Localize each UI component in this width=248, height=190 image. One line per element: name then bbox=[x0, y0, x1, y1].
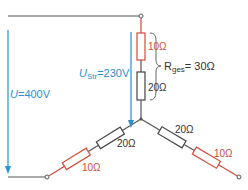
resistor-top-red bbox=[137, 33, 145, 60]
top-terminal bbox=[139, 14, 143, 18]
resistor-label-left-black: 20Ω bbox=[117, 139, 136, 149]
resistor-label-top-red: 10Ω bbox=[148, 42, 167, 52]
resistor-label-right-red: 10Ω bbox=[214, 149, 233, 159]
resistor-top-black bbox=[137, 72, 145, 100]
total-resistance-label: Rges= 30Ω bbox=[164, 61, 215, 74]
phase-voltage-label: UStr=230V bbox=[79, 68, 129, 81]
left-terminal bbox=[45, 175, 49, 179]
right-terminal bbox=[237, 175, 241, 179]
resistor-label-left-red: 10Ω bbox=[82, 163, 101, 173]
resistor-label-top-black: 20Ω bbox=[148, 83, 167, 93]
resistor-label-right-black: 20Ω bbox=[175, 125, 194, 135]
line-voltage-label: U=400V bbox=[10, 89, 50, 100]
